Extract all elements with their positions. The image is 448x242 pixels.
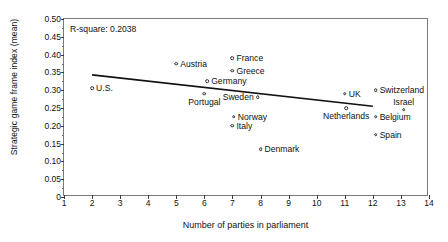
y-tick-label: 0.10 (44, 157, 61, 166)
data-point-label: France (236, 54, 263, 63)
x-tick-label: 10 (312, 199, 321, 208)
x-tick-label: 7 (230, 199, 235, 208)
y-tick-label: 0.20 (44, 122, 61, 131)
y-tick-mark-minor (62, 81, 64, 82)
data-point-marker (259, 147, 263, 151)
data-point-label: UK (349, 89, 361, 98)
data-point-label: Netherlands (323, 112, 369, 121)
y-tick-label: 0.25 (44, 104, 61, 113)
data-point-marker (343, 92, 347, 96)
y-axis-label: Strategic game frame index (mean) (9, 0, 19, 187)
x-tick-label: 5 (174, 199, 179, 208)
data-point-marker (203, 92, 207, 96)
data-point-label: Austria (180, 59, 207, 68)
x-tick-label: 3 (118, 199, 123, 208)
data-point-marker (402, 108, 406, 112)
data-point-marker (231, 56, 235, 60)
y-tick-mark-minor (62, 117, 64, 118)
x-tick-label: 11 (340, 199, 349, 208)
data-point-label: Spain (380, 130, 402, 139)
x-tick-label: 6 (202, 199, 207, 208)
data-point-label: U.S. (96, 84, 113, 93)
data-point-marker (231, 124, 235, 128)
x-tick-label: 1 (62, 199, 67, 208)
x-axis-label: Number of parties in parliament (63, 220, 428, 230)
data-point-label: Greece (236, 66, 264, 75)
data-point-label: Italy (236, 122, 252, 131)
data-point-label: Switzerland (380, 86, 424, 95)
data-point-label: Sweden (223, 93, 254, 102)
y-tick-mark-minor (62, 135, 64, 136)
y-tick-label: 0 (56, 193, 61, 202)
x-tick-label: 9 (286, 199, 291, 208)
data-point-marker (256, 96, 260, 100)
data-point-label: Denmark (265, 145, 300, 154)
y-tick-label: 0.05 (44, 175, 61, 184)
data-point-marker (374, 115, 378, 119)
y-tick-mark-minor (62, 99, 64, 100)
x-tick-label: 12 (368, 199, 377, 208)
y-tick-mark-minor (62, 46, 64, 47)
y-tick-label: 0.35 (44, 68, 61, 77)
data-point-marker (374, 88, 378, 92)
y-tick-label: 0.30 (44, 86, 61, 95)
data-point-label: Israel (393, 98, 414, 107)
y-tick-label: 0.45 (44, 33, 61, 42)
data-point-marker (232, 115, 236, 119)
y-tick-label: 0.50 (44, 15, 61, 24)
data-point-label: Belgium (380, 113, 411, 122)
y-tick-mark-minor (62, 188, 64, 189)
regression-line (64, 19, 429, 197)
x-tick-label: 13 (396, 199, 405, 208)
y-tick-label: 0.40 (44, 50, 61, 59)
data-point-marker (344, 106, 348, 110)
data-point-label: Portugal (188, 98, 220, 107)
x-tick-label: 14 (424, 199, 433, 208)
data-point-label: Norway (238, 113, 267, 122)
plot-area: R-square: 0.2038 00.050.100.150.200.250.… (63, 18, 428, 196)
data-point-marker (231, 69, 235, 73)
data-point-marker (374, 133, 378, 137)
y-tick-mark-minor (62, 153, 64, 154)
x-tick-label: 8 (258, 199, 263, 208)
y-tick-label: 0.15 (44, 139, 61, 148)
data-point-marker (90, 87, 94, 91)
y-tick-mark-minor (62, 64, 64, 65)
data-point-marker (175, 62, 179, 66)
x-tick-label: 4 (146, 199, 151, 208)
y-tick-mark-minor (62, 28, 64, 29)
x-tick-label: 2 (90, 199, 95, 208)
scatter-plot-figure: Strategic game frame index (mean) Number… (0, 0, 448, 242)
y-tick-mark-minor (62, 170, 64, 171)
data-point-label: Germany (211, 77, 246, 86)
data-point-marker (205, 80, 209, 84)
